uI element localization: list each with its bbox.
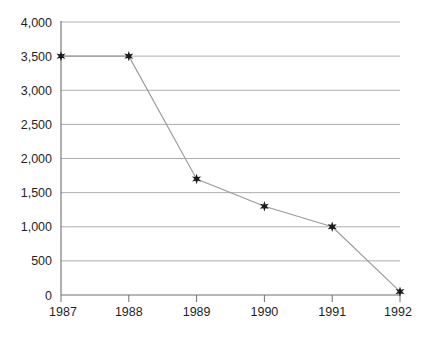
x-axis-tick-label: 1991 — [318, 305, 346, 319]
y-axis-tick-label: 500 — [31, 254, 52, 268]
chart-container: 05001,0001,5002,0002,5003,0003,5004,000 … — [0, 0, 428, 339]
chart-background — [0, 0, 428, 339]
x-axis-tick-label: 1989 — [183, 305, 211, 319]
line-chart: 05001,0001,5002,0002,5003,0003,5004,000 … — [0, 0, 428, 339]
y-axis-tick-label: 2,500 — [21, 118, 52, 132]
y-axis-tick-label: 3,000 — [21, 84, 52, 98]
x-axis-tick-label: 1992 — [384, 305, 412, 319]
x-axis-tick-label: 1987 — [49, 305, 77, 319]
x-axis-tick-label: 1990 — [250, 305, 278, 319]
y-axis-tick-label: 1,500 — [21, 186, 52, 200]
y-axis-tick-label: 0 — [45, 289, 52, 303]
y-axis-tick-label: 2,000 — [21, 152, 52, 166]
y-axis-tick-label: 4,000 — [21, 16, 52, 30]
y-axis-tick-label: 3,500 — [21, 50, 52, 64]
x-axis-tick-label: 1988 — [115, 305, 143, 319]
y-axis-tick-label: 1,000 — [21, 220, 52, 234]
